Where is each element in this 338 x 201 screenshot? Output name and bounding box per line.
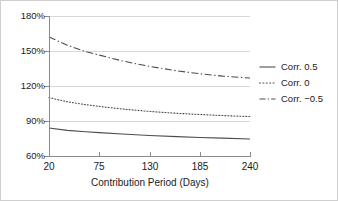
y-axis-label-180: 180% bbox=[21, 11, 45, 21]
x-tick-240 bbox=[250, 152, 251, 157]
legend-label-corr-0: Corr. 0 bbox=[281, 78, 310, 88]
series-line-corr-0 bbox=[49, 98, 250, 117]
x-tick-75 bbox=[99, 152, 100, 157]
x-tick-130 bbox=[150, 152, 151, 157]
x-axis-label-240: 240 bbox=[230, 161, 270, 172]
series-container bbox=[49, 16, 250, 156]
legend-label-corr-0-5: Corr. 0.5 bbox=[281, 62, 317, 72]
chart-legend: Corr. 0.5 Corr. 0 Corr. −0.5 bbox=[259, 59, 337, 107]
legend-swatch-dotted-icon bbox=[259, 78, 276, 88]
legend-item-corr-0: Corr. 0 bbox=[259, 75, 337, 91]
y-axis-label-90: 90% bbox=[26, 116, 45, 126]
x-axis-title: Contribution Period (Days) bbox=[49, 177, 251, 188]
y-axis-label-60: 60% bbox=[26, 151, 45, 161]
chart-figure: 180% 150% 120% 90% 60% 20 75 130 185 240… bbox=[0, 0, 338, 201]
y-axis-label-120: 120% bbox=[21, 81, 45, 91]
legend-item-corr-neg-0-5: Corr. −0.5 bbox=[259, 91, 337, 107]
y-axis-line bbox=[49, 16, 50, 157]
series-line-corr-0-5 bbox=[49, 128, 250, 139]
x-axis-label-130: 130 bbox=[130, 161, 170, 172]
x-axis-label-20: 20 bbox=[29, 161, 69, 172]
x-axis-label-75: 75 bbox=[79, 161, 119, 172]
legend-label-corr-neg-0-5: Corr. −0.5 bbox=[281, 94, 323, 104]
legend-swatch-dashdot-icon bbox=[259, 94, 276, 104]
series-line-corr-neg-0-5 bbox=[49, 37, 250, 78]
legend-swatch-solid-icon bbox=[259, 62, 276, 72]
x-tick-185 bbox=[200, 152, 201, 157]
plot-area bbox=[49, 16, 250, 156]
x-axis-label-185: 185 bbox=[180, 161, 220, 172]
legend-item-corr-0-5: Corr. 0.5 bbox=[259, 59, 337, 75]
x-tick-20 bbox=[49, 152, 50, 157]
y-axis-label-150: 150% bbox=[21, 46, 45, 56]
